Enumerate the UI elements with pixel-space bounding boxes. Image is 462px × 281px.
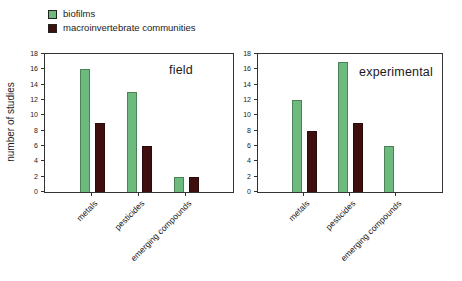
y-tick-mark bbox=[254, 99, 257, 100]
y-tick-mark bbox=[41, 99, 44, 100]
biofilms-swatch-icon bbox=[48, 10, 57, 19]
x-tick-label-pesticides: pesticides bbox=[324, 199, 357, 232]
y-tick-mark bbox=[41, 145, 44, 146]
x-tick-mark bbox=[185, 193, 186, 196]
y-tick-label: 18 bbox=[24, 50, 38, 57]
bar-pesticides-biofilms bbox=[127, 92, 137, 192]
bar-pesticides-macroinvertebrate bbox=[142, 146, 152, 192]
y-tick-label: 0 bbox=[237, 188, 251, 195]
y-tick-mark bbox=[254, 191, 257, 192]
experimental-plot-area: experimental bbox=[257, 53, 443, 193]
x-tick-label-metals: metals bbox=[287, 199, 311, 223]
bar-emerging-compounds-macroinvertebrate bbox=[189, 177, 199, 192]
y-tick-mark bbox=[254, 176, 257, 177]
y-tick-label: 0 bbox=[24, 188, 38, 195]
y-tick-label: 6 bbox=[237, 142, 251, 149]
x-tick-mark bbox=[138, 193, 139, 196]
y-tick-mark bbox=[41, 84, 44, 85]
y-tick-label: 4 bbox=[24, 157, 38, 164]
y-tick-mark bbox=[41, 176, 44, 177]
y-tick-mark bbox=[41, 68, 44, 69]
y-tick-label: 8 bbox=[24, 127, 38, 134]
x-tick-label-metals: metals bbox=[75, 199, 99, 223]
y-tick-mark bbox=[41, 53, 44, 54]
legend-label-macroinvertebrate-communities: macroinvertebrate communities bbox=[63, 23, 196, 33]
field-chart: field 024681012141618metalspesticideseme… bbox=[24, 53, 254, 281]
experimental-chart: experimental 024681012141618metalspestic… bbox=[237, 53, 462, 281]
legend-item-macroinvertebrate-communities: macroinvertebrate communities bbox=[48, 21, 196, 35]
y-tick-label: 6 bbox=[24, 142, 38, 149]
y-tick-label: 8 bbox=[237, 127, 251, 134]
y-tick-label: 16 bbox=[24, 65, 38, 72]
y-tick-label: 2 bbox=[237, 173, 251, 180]
y-tick-label: 12 bbox=[237, 96, 251, 103]
y-tick-mark bbox=[254, 130, 257, 131]
x-tick-label-pesticides: pesticides bbox=[113, 199, 146, 232]
bar-metals-biofilms bbox=[292, 100, 302, 192]
x-tick-mark bbox=[303, 193, 304, 196]
y-tick-label: 14 bbox=[237, 81, 251, 88]
y-tick-label: 12 bbox=[24, 96, 38, 103]
y-tick-label: 4 bbox=[237, 157, 251, 164]
bar-pesticides-biofilms bbox=[338, 62, 348, 192]
y-tick-label: 14 bbox=[24, 81, 38, 88]
macroinvertebrate-swatch-icon bbox=[48, 24, 57, 33]
y-tick-label: 10 bbox=[237, 111, 251, 118]
y-axis-title: number of studies bbox=[5, 82, 16, 162]
bar-metals-macroinvertebrate bbox=[95, 123, 105, 192]
y-tick-mark bbox=[254, 145, 257, 146]
y-tick-label: 18 bbox=[237, 50, 251, 57]
y-tick-mark bbox=[254, 114, 257, 115]
chart-legend: biofilms macroinvertebrate communities bbox=[48, 7, 196, 35]
experimental-chart-title: experimental bbox=[359, 65, 433, 79]
x-tick-mark bbox=[395, 193, 396, 196]
y-tick-mark bbox=[41, 114, 44, 115]
dual-bar-chart-figure: biofilms macroinvertebrate communities n… bbox=[0, 0, 462, 281]
bar-metals-macroinvertebrate bbox=[307, 131, 317, 192]
y-tick-mark bbox=[254, 68, 257, 69]
bar-metals-biofilms bbox=[80, 69, 90, 192]
y-tick-label: 10 bbox=[24, 111, 38, 118]
bar-pesticides-macroinvertebrate bbox=[353, 123, 363, 192]
bar-emerging-compounds-biofilms bbox=[384, 146, 394, 192]
y-tick-mark bbox=[254, 160, 257, 161]
y-tick-mark bbox=[254, 84, 257, 85]
field-plot-area: field bbox=[44, 53, 234, 193]
x-tick-mark bbox=[349, 193, 350, 196]
y-tick-mark bbox=[41, 130, 44, 131]
legend-label-biofilms: biofilms bbox=[63, 9, 95, 19]
y-tick-mark bbox=[41, 160, 44, 161]
legend-item-biofilms: biofilms bbox=[48, 7, 196, 21]
y-tick-label: 2 bbox=[24, 173, 38, 180]
y-tick-mark bbox=[41, 191, 44, 192]
x-tick-mark bbox=[91, 193, 92, 196]
y-tick-mark bbox=[254, 53, 257, 54]
y-tick-label: 16 bbox=[237, 65, 251, 72]
bar-emerging-compounds-biofilms bbox=[174, 177, 184, 192]
field-chart-title: field bbox=[169, 63, 193, 77]
